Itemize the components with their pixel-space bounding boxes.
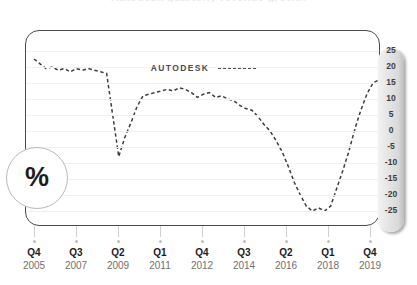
tick-dot <box>243 240 246 243</box>
y-axis-tick-label: 25 <box>378 45 404 55</box>
tick-dot <box>369 240 372 243</box>
tick-dot <box>75 240 78 243</box>
x-axis-quarter-label: Q4 <box>345 247 395 259</box>
tick-stem <box>286 226 287 237</box>
tick-dot <box>201 240 204 243</box>
x-axis-year-label: 2019 <box>345 259 395 272</box>
series-path <box>34 59 379 211</box>
tick-stem <box>244 226 245 237</box>
tick-stem <box>76 226 77 237</box>
gridline <box>26 67 379 68</box>
tick-dot <box>327 240 330 243</box>
y-axis-tick-label: 10 <box>378 93 404 103</box>
gridline <box>26 83 379 84</box>
gridline <box>26 99 379 100</box>
y-axis-tick-label: 15 <box>378 77 404 87</box>
x-axis-labels: Q42005Q32007Q22009Q12011Q42012Q32014Q220… <box>0 226 417 285</box>
gridline <box>26 163 379 164</box>
percent-badge: % <box>6 147 68 209</box>
y-axis-tick-label: -20 <box>378 189 404 199</box>
y-axis-tick-label: -10 <box>378 157 404 167</box>
tick-stem <box>160 226 161 237</box>
y-axis-tick-label: 20 <box>378 61 404 71</box>
tick-stem <box>34 226 35 237</box>
gridline <box>26 115 379 116</box>
y-axis-tick-label: 5 <box>378 109 404 119</box>
tick-dot <box>285 240 288 243</box>
percent-symbol: % <box>25 164 49 191</box>
y-axis-tick-label: 0 <box>378 125 404 135</box>
y-axis-tick-label: -25 <box>378 205 404 215</box>
tick-dot <box>33 240 36 243</box>
gridline <box>26 179 379 180</box>
tick-dot <box>159 240 162 243</box>
gridline <box>26 147 379 148</box>
tick-dot <box>117 240 120 243</box>
x-axis-tick: Q42019 <box>345 226 395 272</box>
clipped-headline: Autodesk quarterly revenue growth <box>0 0 417 2</box>
gridline <box>26 195 379 196</box>
chart-screenshot: Autodesk quarterly revenue growth AUTODE… <box>0 0 417 285</box>
gridline <box>26 211 379 212</box>
y-axis-tick-label: -15 <box>378 173 404 183</box>
tick-stem <box>328 226 329 237</box>
chart-card: AUTODESK <box>25 30 380 226</box>
tick-stem <box>118 226 119 237</box>
y-axis-scale: 2520151050-5-10-15-20-25 <box>378 48 404 232</box>
tick-stem <box>202 226 203 237</box>
plot-area <box>26 31 379 225</box>
gridline <box>26 51 379 52</box>
tick-stem <box>370 226 371 237</box>
y-axis-tick-label: -5 <box>378 141 404 151</box>
gridline <box>26 131 379 132</box>
